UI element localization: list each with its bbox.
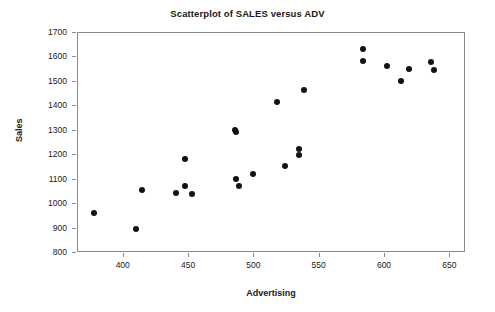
y-tick-mark bbox=[72, 203, 76, 204]
y-tick-mark bbox=[72, 179, 76, 180]
x-tick-mark bbox=[319, 253, 320, 257]
y-tick-label: 1500 bbox=[33, 76, 67, 86]
y-tick-label: 1300 bbox=[33, 125, 67, 135]
y-tick-mark bbox=[72, 105, 76, 106]
y-tick-mark bbox=[72, 56, 76, 57]
y-tick-label: 1700 bbox=[33, 27, 67, 37]
y-tick-mark bbox=[72, 32, 76, 33]
x-tick-mark bbox=[253, 253, 254, 257]
y-tick-label: 1000 bbox=[33, 198, 67, 208]
x-tick-mark bbox=[449, 253, 450, 257]
y-tick-label: 1400 bbox=[33, 100, 67, 110]
y-tick-mark bbox=[72, 130, 76, 131]
x-tick-label: 450 bbox=[168, 260, 208, 270]
chart-title: Scatterplot of SALES versus ADV bbox=[0, 8, 495, 19]
y-tick-label: 1200 bbox=[33, 149, 67, 159]
y-tick-mark bbox=[72, 81, 76, 82]
scatterplot-figure: Scatterplot of SALES versus ADV 80090010… bbox=[0, 0, 495, 312]
y-tick-label: 900 bbox=[33, 223, 67, 233]
x-tick-mark bbox=[384, 253, 385, 257]
x-tick-label: 400 bbox=[103, 260, 143, 270]
y-tick-label: 1600 bbox=[33, 51, 67, 61]
y-tick-label: 1100 bbox=[33, 174, 67, 184]
x-tick-label: 600 bbox=[364, 260, 404, 270]
x-tick-label: 550 bbox=[299, 260, 339, 270]
x-tick-mark bbox=[188, 253, 189, 257]
y-tick-mark bbox=[72, 228, 76, 229]
y-tick-mark bbox=[72, 154, 76, 155]
x-axis-title: Advertising bbox=[77, 288, 465, 298]
y-tick-label: 800 bbox=[33, 247, 67, 257]
y-tick-mark bbox=[72, 252, 76, 253]
x-tick-label: 500 bbox=[233, 260, 273, 270]
plot-area bbox=[77, 32, 465, 252]
x-tick-mark bbox=[123, 253, 124, 257]
y-axis-title: Sales bbox=[14, 118, 24, 142]
x-tick-label: 650 bbox=[429, 260, 469, 270]
